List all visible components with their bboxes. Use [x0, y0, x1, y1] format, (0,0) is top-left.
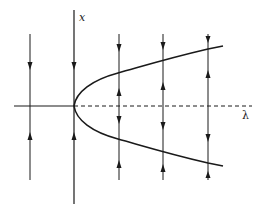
- arrow-down-icon: [206, 134, 211, 142]
- arrow-down-icon: [28, 62, 33, 70]
- flow-line-positive-2: [161, 34, 166, 180]
- flow-line-positive-3: [206, 34, 211, 180]
- lambda-axis-label: λ: [242, 110, 249, 121]
- arrow-down-icon: [72, 62, 77, 70]
- bifurcation-diagram: [0, 0, 262, 212]
- arrow-up-icon: [161, 164, 166, 172]
- arrow-down-icon: [161, 122, 166, 130]
- arrow-up-icon: [117, 160, 122, 168]
- arrow-down-icon: [117, 116, 122, 124]
- arrow-up-icon: [161, 82, 166, 90]
- arrow-up-icon: [206, 70, 211, 78]
- stable-lower-branch: [74, 106, 223, 166]
- flow-line-negative-lambda: [28, 34, 33, 180]
- arrow-down-icon: [206, 36, 211, 43]
- arrow-down-icon: [117, 44, 122, 52]
- arrow-up-icon: [72, 132, 77, 140]
- flow-line-positive-1: [117, 34, 122, 180]
- arrow-up-icon: [206, 171, 211, 178]
- arrow-down-icon: [161, 42, 166, 50]
- x-axis-label: x: [79, 12, 85, 23]
- stable-upper-branch: [74, 46, 223, 106]
- arrow-up-icon: [28, 132, 33, 140]
- arrow-up-icon: [117, 88, 122, 96]
